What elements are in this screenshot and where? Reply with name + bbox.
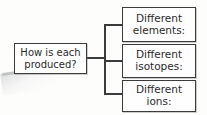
node-question-line-2: produced? [24,59,76,70]
node-isotopes-line-2: isotopes: [135,61,183,73]
connector-to-isotopes [104,60,123,62]
node-question-line-1: How is each [20,47,80,58]
node-ions-line-2: ions: [146,96,171,108]
connector-to-elements [104,24,123,26]
node-question: How is each produced? [14,43,87,74]
diagram-canvas: How is each produced? Different elements… [0,0,207,115]
node-elements-line-1: Different [136,13,182,25]
connector-vertical-spine [104,24,106,94]
node-different-elements: Different elements: [122,7,196,42]
node-elements-line-2: elements: [133,25,185,37]
connector-to-ions [104,93,123,95]
node-different-isotopes: Different isotopes: [122,44,196,78]
node-different-ions: Different ions: [122,80,196,112]
